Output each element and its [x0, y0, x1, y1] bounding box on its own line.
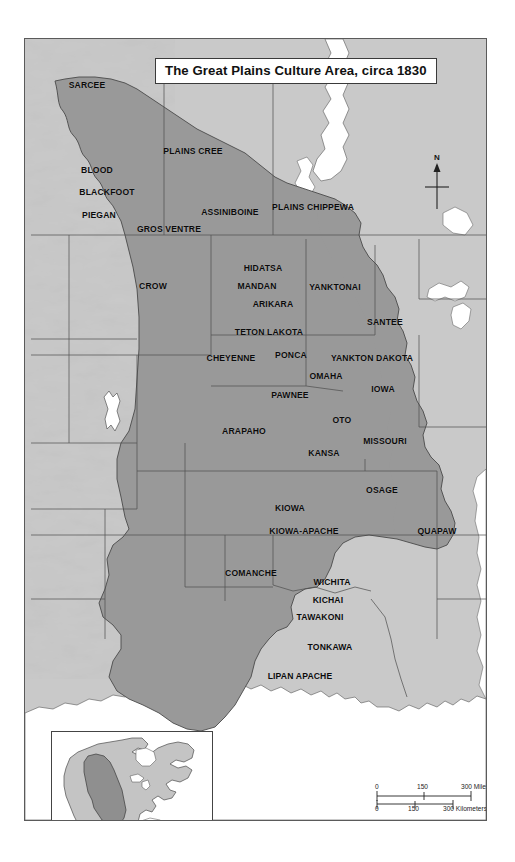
scale-bar: 0 150 300 Miles 0 150 300 Kilometers: [375, 783, 487, 817]
tribe-label: KIOWA: [275, 503, 305, 513]
tribe-label: MISSOURI: [363, 436, 407, 446]
tribe-label: QUAPAW: [418, 526, 457, 536]
scale-miles-label: 300 Miles: [461, 783, 487, 790]
tribe-label: SARCEE: [69, 80, 106, 90]
tribe-label: MANDAN: [237, 281, 276, 291]
tribe-label: OMAHA: [309, 371, 342, 381]
tribe-label: BLACKFOOT: [79, 187, 134, 197]
map-title-box: The Great Plains Culture Area, circa 183…: [155, 58, 437, 84]
tribe-label: PLAINS CHIPPEWA: [272, 202, 354, 212]
tribe-label: SANTEE: [367, 317, 403, 327]
north-arrow-icon: [422, 155, 452, 211]
inset-graphic: [52, 732, 212, 821]
compass-north-label: N: [434, 153, 440, 162]
tribe-label: WICHITA: [313, 577, 350, 587]
tribe-label: YANKTON DAKOTA: [331, 353, 413, 363]
tribe-label: KANSA: [308, 448, 339, 458]
tribe-label: YANKTONAI: [309, 282, 361, 292]
tribe-label: TAWAKONI: [297, 612, 344, 622]
map-page: SARCEEPLAINS CREEBLOODBLACKFOOTPIEGANASS…: [0, 0, 515, 862]
tribe-label: TETON LAKOTA: [235, 327, 303, 337]
tribe-label: OTO: [333, 415, 352, 425]
tribe-label: PLAINS CREE: [163, 146, 222, 156]
tribe-label: PIEGAN: [82, 210, 116, 220]
tribe-label: TONKAWA: [308, 642, 353, 652]
tribe-label: KIOWA-APACHE: [269, 526, 338, 536]
tribe-label: GROS VENTRE: [137, 224, 201, 234]
tribe-label: OSAGE: [366, 485, 398, 495]
scale-miles-tick-150: 150: [417, 783, 428, 790]
compass-rose: N: [422, 155, 452, 211]
scale-km-tick-0: 0: [375, 805, 379, 812]
tribe-label: ARAPAHO: [222, 426, 266, 436]
scale-km-label: 300 Kilometers: [443, 805, 487, 812]
tribe-label: ARIKARA: [253, 299, 294, 309]
scale-km-tick-150: 150: [408, 805, 419, 812]
tribe-label: PONCA: [275, 350, 307, 360]
tribe-label: CHEYENNE: [207, 353, 256, 363]
tribe-label: PAWNEE: [271, 390, 309, 400]
tribe-label: HIDATSA: [244, 263, 283, 273]
map-frame: SARCEEPLAINS CREEBLOODBLACKFOOTPIEGANASS…: [24, 38, 487, 821]
tribe-label: ASSINIBOINE: [201, 207, 259, 217]
inset-locator-map: [51, 731, 213, 821]
tribe-label: COMANCHE: [225, 568, 277, 578]
tribe-label: BLOOD: [81, 165, 113, 175]
page-title: The Great Plains Culture Area, circa 183…: [165, 63, 427, 78]
tribe-label: CROW: [139, 281, 167, 291]
tribe-label: LIPAN APACHE: [268, 671, 333, 681]
tribe-label: IOWA: [371, 384, 395, 394]
tribe-label: KICHAI: [313, 595, 344, 605]
scale-miles-tick-0: 0: [375, 783, 379, 790]
